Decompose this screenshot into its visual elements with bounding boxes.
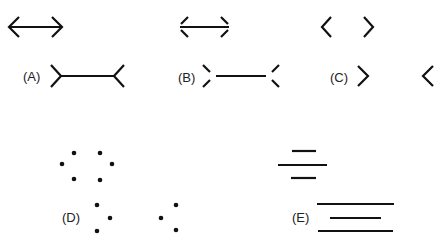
label-c: (C) [330,71,348,84]
illusion-diagram [0,0,443,238]
label-b: (B) [178,71,195,84]
figure-c-fins [358,66,433,86]
label-e: (E) [292,211,309,224]
label-d: (D) [62,211,80,224]
figure-a-arrow [9,17,62,37]
figure-a-fins [51,65,124,87]
figure-c-arrow [322,17,373,37]
figure-b-arrow [180,17,229,37]
label-a: (A) [23,70,40,83]
figure-b-fins [203,65,279,87]
